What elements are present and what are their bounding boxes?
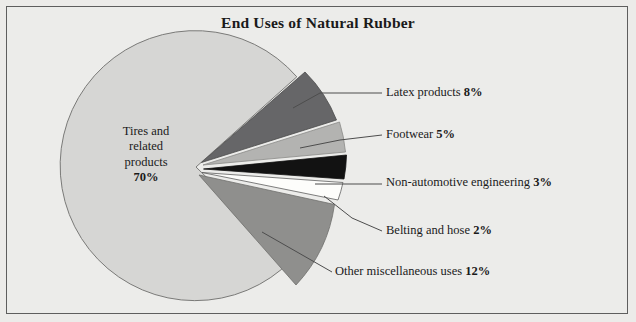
callout-label-other-miscellaneous-uses: Other miscellaneous uses 12% xyxy=(335,265,490,279)
pie-center-label: Tires and related products 70% xyxy=(86,124,206,185)
callout-percent: 12% xyxy=(465,264,490,278)
callout-text: Belting and hose xyxy=(386,223,470,237)
callout-label-latex-products: Latex products 8% xyxy=(386,86,483,100)
callout-label-non-automotive-engineering: Non-automotive engineering 3% xyxy=(386,176,552,190)
center-label-line-3: products xyxy=(86,155,206,170)
callout-text: Latex products xyxy=(386,85,461,99)
center-label-line-2: related xyxy=(86,139,206,154)
callout-percent: 8% xyxy=(464,85,483,99)
center-label-line-1: Tires and xyxy=(86,124,206,139)
callout-text: Footwear xyxy=(386,127,433,141)
callout-label-belting-and-hose: Belting and hose 2% xyxy=(386,224,492,238)
callout-percent: 2% xyxy=(473,223,492,237)
callout-label-footwear: Footwear 5% xyxy=(386,128,455,142)
callout-percent: 5% xyxy=(436,127,455,141)
callout-text: Non-automotive engineering xyxy=(386,175,530,189)
chart-figure: End Uses of Natural Rubber Tires and rel… xyxy=(0,0,636,322)
center-label-percent: 70% xyxy=(86,170,206,185)
callout-percent: 3% xyxy=(533,175,552,189)
callout-text: Other miscellaneous uses xyxy=(335,264,462,278)
